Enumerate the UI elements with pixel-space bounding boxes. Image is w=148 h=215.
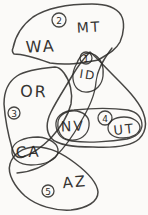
marker-3: 3 xyxy=(8,107,20,119)
state-label-wa: WA xyxy=(25,36,56,57)
marker-5: 5 xyxy=(42,185,54,197)
marker-4: 4 xyxy=(98,111,112,125)
marker-1: 1 xyxy=(80,52,92,64)
marker-2: 2 xyxy=(52,13,66,27)
marker-number-4: 4 xyxy=(102,114,108,124)
state-label-ca: CA xyxy=(16,143,41,162)
state-label-mt: MT xyxy=(76,18,101,35)
marker-number-5: 5 xyxy=(45,187,51,197)
state-label-az: AZ xyxy=(62,172,88,192)
marker-number-3: 3 xyxy=(11,109,17,119)
state-label-or: OR xyxy=(20,82,48,102)
marker-number-2: 2 xyxy=(56,16,62,26)
state-label-id: ID xyxy=(79,67,98,83)
hand-drawn-states-diagram: WA MT OR ID NV UT CA AZ 1 2 3 4 5 xyxy=(0,0,148,215)
state-label-ut: UT xyxy=(113,121,136,138)
marker-number-1: 1 xyxy=(83,54,89,64)
diagram-canvas: WA MT OR ID NV UT CA AZ 1 2 3 4 5 xyxy=(0,0,148,215)
state-label-nv: NV xyxy=(61,118,86,135)
